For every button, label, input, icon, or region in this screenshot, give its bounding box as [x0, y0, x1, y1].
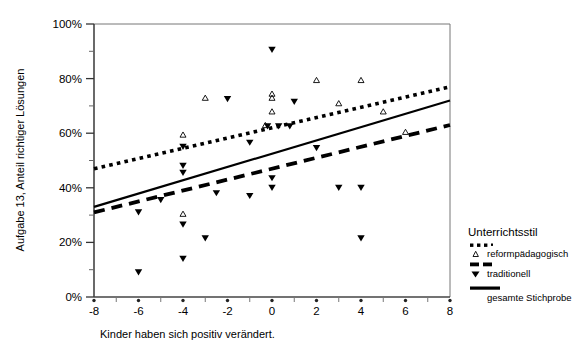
data-point-traditionell — [179, 256, 186, 262]
data-point-traditionell — [135, 209, 142, 215]
data-point-traditionell — [213, 190, 220, 196]
data-point-reformpaedagogisch — [336, 101, 342, 106]
triangle-down-filled-icon — [472, 272, 480, 278]
x-tick-dot--2 — [226, 299, 229, 302]
x-tick-label--8: -8 — [89, 305, 99, 317]
scatter-plot-svg: 100% 80% 60% 40% 20% 0% — [0, 0, 580, 360]
data-point-reformpaedagogisch — [403, 129, 409, 134]
y-axis-title: Aufgabe 13, Anteil richtiger Lösungen — [14, 69, 26, 252]
x-tick-dot--8 — [92, 299, 95, 302]
legend-dashed-line-swatch — [470, 263, 492, 267]
y-tick-label-100: 100% — [53, 18, 82, 30]
data-point-traditionell — [246, 140, 253, 146]
data-point-traditionell — [313, 145, 320, 151]
data-point-reformpaedagogisch — [180, 132, 186, 137]
x-tick-dot-6 — [404, 299, 407, 302]
x-tick-label--4: -4 — [178, 305, 189, 317]
data-point-traditionell — [179, 222, 186, 228]
data-point-traditionell — [357, 185, 364, 191]
legend-item-traditionell[interactable]: traditionell — [470, 263, 530, 280]
data-point-traditionell — [179, 163, 186, 169]
x-tick-dot-0 — [270, 299, 273, 302]
x-axis-ticks — [92, 299, 451, 302]
trend-line-dashed — [94, 125, 450, 212]
data-point-traditionell — [224, 96, 231, 102]
data-point-traditionell — [268, 47, 275, 53]
trend-line-solid — [94, 100, 450, 206]
legend-item-gesamte-stichprobe[interactable]: gesamte Stichprobe — [470, 287, 572, 304]
data-point-reformpaedagogisch — [358, 77, 364, 82]
legend-solid-line-swatch — [470, 287, 500, 290]
x-tick-dot-4 — [359, 299, 362, 302]
data-point-traditionell — [268, 175, 275, 181]
y-tick-label-0: 0% — [65, 291, 82, 303]
triangle-up-open-icon — [473, 251, 478, 256]
legend-label-traditionell: traditionell — [487, 268, 530, 279]
y-tick-label-60: 60% — [59, 127, 82, 139]
data-point-traditionell — [335, 185, 342, 191]
x-tick-label-6: 6 — [402, 305, 408, 317]
x-tick-label--2: -2 — [222, 305, 232, 317]
legend-item-reformpaedagogisch[interactable]: reformpädagogisch — [470, 244, 568, 260]
legend-dotted-line-swatch — [470, 244, 493, 247]
x-tick-label-2: 2 — [313, 305, 319, 317]
y-tick-label-20: 20% — [59, 236, 82, 248]
legend-label-reformpaedagogisch: reformpädagogisch — [487, 248, 568, 259]
data-point-reformpaedagogisch — [380, 109, 386, 114]
data-point-traditionell — [157, 197, 164, 203]
x-tick-dot--4 — [181, 299, 184, 302]
data-point-traditionell — [275, 123, 282, 129]
legend-label-gesamte-stichprobe: gesamte Stichprobe — [487, 292, 572, 303]
data-point-traditionell — [135, 269, 142, 275]
x-tick-label-4: 4 — [358, 305, 365, 317]
x-tick-dot-2 — [315, 299, 318, 302]
data-point-traditionell — [202, 235, 209, 241]
chart-figure: 100% 80% 60% 40% 20% 0% — [0, 0, 580, 360]
legend-title: Unterrichtsstil — [468, 226, 538, 238]
data-point-traditionell — [246, 193, 253, 199]
x-tick-dot-8 — [448, 299, 451, 302]
data-point-reformpaedagogisch — [314, 77, 320, 82]
data-point-traditionell — [286, 123, 293, 129]
data-point-reformpaedagogisch — [180, 211, 186, 216]
legend: Unterrichtsstil reformpädagogisch tradit… — [468, 226, 572, 303]
data-point-traditionell — [268, 185, 275, 191]
plot-frame — [94, 24, 450, 297]
data-point-traditionell — [291, 99, 298, 105]
x-axis-tick-labels: -8 -6 -4 -2 0 2 4 6 8 — [89, 305, 453, 317]
x-tick-label-8: 8 — [447, 305, 453, 317]
x-tick-label-0: 0 — [269, 305, 275, 317]
y-tick-label-80: 80% — [59, 73, 82, 85]
data-point-traditionell — [357, 235, 364, 241]
x-tick-dot--6 — [137, 299, 140, 302]
data-point-reformpaedagogisch — [202, 95, 208, 100]
y-axis-tick-labels: 100% 80% 60% 40% 20% 0% — [53, 18, 82, 303]
data-point-reformpaedagogisch — [269, 109, 275, 114]
trend-line-dotted — [94, 87, 450, 169]
data-point-traditionell — [179, 170, 186, 176]
data-series-layer — [94, 47, 450, 276]
x-axis-title: Kinder haben sich positiv verändert. — [100, 328, 275, 340]
y-tick-label-40: 40% — [59, 182, 82, 194]
x-tick-label--6: -6 — [133, 305, 143, 317]
